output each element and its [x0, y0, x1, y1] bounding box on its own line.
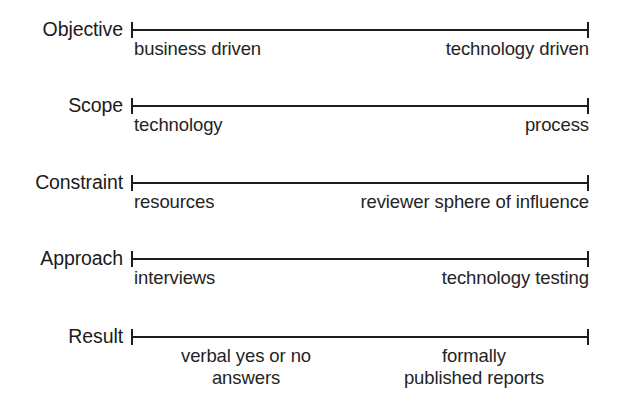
right-pole-label-constraint: reviewer sphere of influence	[360, 191, 589, 213]
axis-line-result	[131, 336, 589, 338]
left-pole-label-result: verbal yes or no answers	[131, 345, 361, 389]
axis-end-cap-left-result	[131, 329, 133, 345]
row-label-objective: Objective	[43, 20, 123, 40]
axis-line-objective	[131, 29, 589, 31]
axis-end-cap-right-approach	[587, 251, 589, 267]
row-label-approach: Approach	[40, 249, 123, 269]
axis-end-cap-right-result	[587, 329, 589, 345]
axis-end-cap-right-objective	[587, 22, 589, 38]
axis-line-approach	[131, 258, 589, 260]
axis-end-cap-left-approach	[131, 251, 133, 267]
right-pole-label-approach: technology testing	[442, 267, 589, 289]
row-label-constraint: Constraint	[35, 173, 123, 193]
left-pole-label-approach: interviews	[134, 267, 215, 289]
axis-end-cap-right-scope	[587, 98, 589, 114]
axis-line-constraint	[131, 182, 589, 184]
axis-end-cap-left-scope	[131, 98, 133, 114]
axis-end-cap-left-constraint	[131, 175, 133, 191]
left-pole-label-scope: technology	[134, 114, 222, 136]
right-pole-label-objective: technology driven	[446, 38, 589, 60]
axis-end-cap-left-objective	[131, 22, 133, 38]
row-label-scope: Scope	[68, 96, 123, 116]
right-pole-label-scope: process	[525, 114, 589, 136]
spectrum-diagram: Objectivebusiness driventechnology drive…	[0, 0, 643, 414]
row-label-result: Result	[68, 327, 123, 347]
axis-line-scope	[131, 105, 589, 107]
left-pole-label-objective: business driven	[134, 38, 261, 60]
right-pole-label-result: formally published reports	[359, 345, 589, 389]
axis-end-cap-right-constraint	[587, 175, 589, 191]
left-pole-label-constraint: resources	[134, 191, 214, 213]
